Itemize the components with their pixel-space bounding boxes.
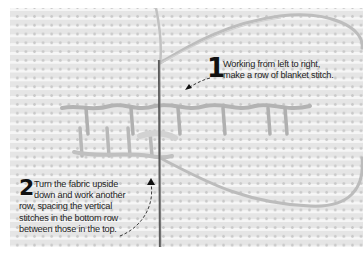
arrowhead-1	[185, 84, 192, 90]
step-1-line-1: Working from left to right,	[223, 59, 353, 70]
thread-loop-bottom	[160, 158, 362, 206]
bottom-row-verticals	[80, 128, 152, 156]
step-1-caption: Working from left to right, make a row o…	[223, 59, 353, 81]
step-2-caption: Turn the fabric upside down and work ano…	[19, 179, 149, 235]
middle-knot	[140, 133, 175, 138]
bottom-row-thread	[74, 152, 172, 158]
step-1-line-2: make a row of blanket stitch.	[223, 70, 353, 81]
top-row-thread	[62, 105, 310, 108]
step-2-line-4: stitches in the bottom row	[19, 213, 149, 224]
step-2-line-3: row, spacing the vertical	[19, 201, 149, 212]
thread-loop-top	[160, 15, 362, 63]
step-2-line-2: down and work another	[19, 190, 149, 201]
top-row-verticals	[86, 108, 287, 134]
thread-top	[156, 8, 161, 64]
step-2-line-5: between those in the top.	[19, 224, 149, 235]
step-2-line-1: Turn the fabric upside	[19, 179, 149, 190]
